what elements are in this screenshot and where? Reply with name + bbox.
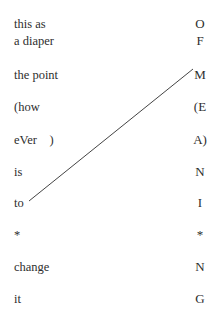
- left-word-how: (how: [14, 100, 40, 114]
- left-word-it: it: [14, 292, 21, 306]
- right-letter-n-2: N: [190, 260, 210, 274]
- right-letter-m: M: [190, 68, 210, 82]
- left-word-change: change: [14, 260, 49, 274]
- right-letter-n: N: [190, 165, 210, 179]
- left-word-the-point: the point: [14, 68, 58, 82]
- left-word-this-as: this as: [14, 17, 46, 31]
- right-letter-o: O: [190, 17, 210, 31]
- right-letter-a: A): [190, 133, 210, 147]
- left-word-to: to: [14, 196, 24, 210]
- right-letter-f: F: [190, 34, 210, 48]
- left-word-is: is: [14, 165, 22, 179]
- left-word-ever: eVer ): [14, 133, 54, 147]
- left-asterisk: *: [14, 228, 20, 242]
- right-letter-i: I: [190, 196, 210, 210]
- right-letter-e: (E: [190, 100, 210, 114]
- left-word-a-diaper: a diaper: [14, 34, 54, 48]
- right-letter-g: G: [190, 292, 210, 306]
- right-asterisk: *: [190, 228, 210, 242]
